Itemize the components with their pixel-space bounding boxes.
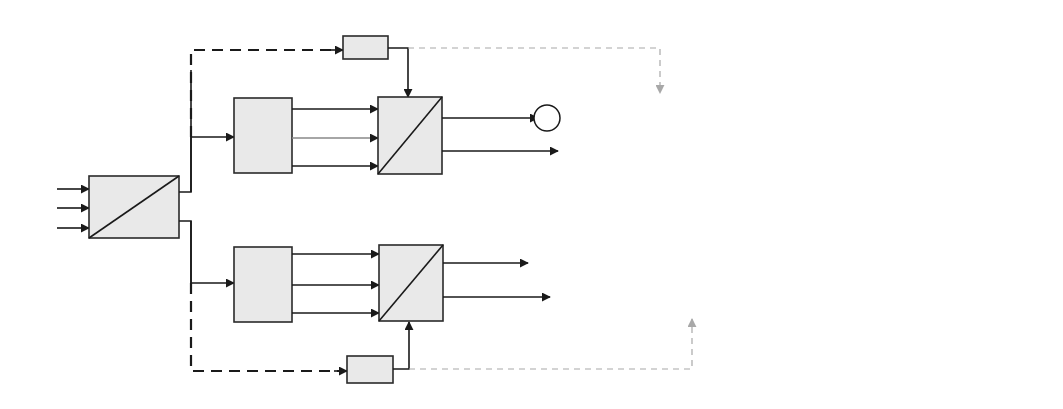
sum-junction-upper-d [534,105,560,131]
park-transform-upper [378,97,442,174]
wire-theta1-to-park [388,48,408,97]
theta2-block [347,356,393,383]
dashed-theta2-to-invpark [409,319,692,369]
t2-block [234,247,292,322]
wire-v2ab-branch [179,221,191,283]
park-transform-lower [379,245,443,321]
wire-v1ab-branch [179,70,191,192]
wire-to-t1 [191,137,234,192]
sequence-transform-block [89,176,179,238]
t1-block [234,98,292,173]
dvr-control-diagram [0,0,1063,409]
theta1-block [343,36,388,59]
dashed-theta1-to-invpark [408,48,660,93]
wire-theta2-to-park [393,322,409,369]
wire-to-t2 [191,221,234,283]
